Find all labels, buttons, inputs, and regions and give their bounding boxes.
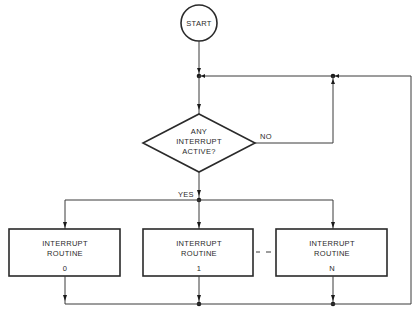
arrow-down-icon [197, 190, 201, 196]
decision-label-line1: ANY [191, 127, 207, 136]
no-label: NO [260, 132, 272, 141]
routine-index: 1 [197, 264, 201, 273]
yes-label: YES [178, 190, 194, 199]
routine-index: N [329, 264, 335, 273]
routine-node-0: INTERRUPT ROUTINE 0 [9, 229, 120, 276]
routine-label-line2: ROUTINE [47, 249, 83, 258]
arrow-down-icon [197, 222, 201, 228]
routine-label-line1: INTERRUPT [42, 239, 88, 248]
decision-node: ANY INTERRUPT ACTIVE? [143, 114, 255, 172]
routine-node-1: INTERRUPT ROUTINE 1 [143, 229, 253, 276]
arrow-left-icon [335, 74, 339, 78]
routine-label-line1: INTERRUPT [309, 239, 355, 248]
routine-label-line1: INTERRUPT [176, 239, 222, 248]
flowchart-canvas: START ANY INTERRUPT ACTIVE? NO YES INTER… [0, 0, 415, 312]
arrow-down-icon [331, 295, 335, 301]
arrow-down-icon [197, 295, 201, 301]
arrow-down-icon [197, 104, 201, 110]
routine-label-line2: ROUTINE [181, 249, 217, 258]
routine-index: 0 [63, 264, 67, 273]
routine-label-line2: ROUTINE [314, 249, 350, 258]
start-node: START [181, 5, 217, 41]
start-label: START [186, 19, 212, 28]
arrow-down-icon [331, 222, 335, 228]
arrow-down-icon [63, 295, 67, 301]
decision-label-line3: ACTIVE? [182, 147, 215, 156]
arrow-down-icon [63, 222, 67, 228]
decision-label-line2: INTERRUPT [176, 137, 222, 146]
arrow-up-icon [331, 79, 335, 84]
arrow-down-icon [197, 68, 201, 73]
arrow-left-icon [201, 74, 205, 78]
routine-node-n: INTERRUPT ROUTINE N [276, 229, 387, 276]
